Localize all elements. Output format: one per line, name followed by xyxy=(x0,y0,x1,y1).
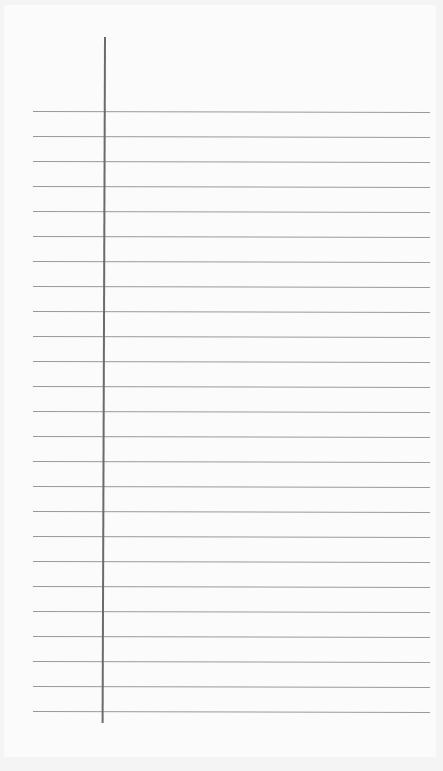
lined-paper xyxy=(4,5,436,757)
